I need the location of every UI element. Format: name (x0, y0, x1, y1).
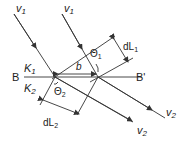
label-v1-right: v1 (64, 2, 74, 16)
label-v2-right: v2 (166, 106, 177, 120)
label-b-distance: b (76, 61, 82, 72)
label-theta2: Θ2 (54, 86, 66, 98)
theta2-arc (54, 82, 58, 84)
label-k2: K2 (24, 82, 36, 96)
label-v2-lower: v2 (137, 124, 148, 138)
label-dl2: dL2 (43, 117, 58, 129)
refraction-diagram: v1 v1 K1 K2 B B' b Θ1 Θ2 dL1 dL2 v2 v2 (0, 0, 185, 145)
label-k1: K1 (24, 62, 36, 76)
label-dl1: dL1 (123, 41, 138, 53)
wavefront-2 (77, 77, 98, 115)
label-b-left: B (12, 71, 19, 83)
theta1-arc (96, 64, 98, 72)
dl2-arrow (43, 100, 79, 114)
wavefront-1 (52, 36, 115, 79)
label-b-right: B' (136, 71, 145, 83)
label-v1-left: v1 (16, 2, 26, 16)
label-theta1: Θ1 (90, 48, 102, 60)
